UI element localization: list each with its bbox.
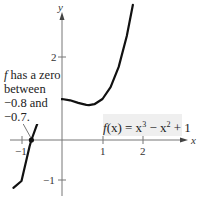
annotation-line-1: f has a zero — [4, 68, 61, 82]
x-axis-arrow-icon — [180, 138, 188, 143]
x-axis-label: x — [190, 134, 196, 146]
y-axis-label: y — [57, 1, 63, 13]
annotation-line-4: −0.7. — [4, 110, 61, 124]
x-tick-label-1: 1 — [100, 145, 106, 157]
x-tick-label-minus-1: −1 — [15, 145, 27, 157]
annotation-line-3: −0.8 and — [4, 96, 61, 110]
x-tick-label-2: 2 — [140, 145, 146, 157]
zero-annotation: f has a zero between −0.8 and −0.7. — [4, 68, 61, 124]
zero-point-marker — [29, 137, 34, 142]
function-formula-label: f(x) = x3 − x2 + 1 — [103, 114, 182, 136]
y-axis-arrow-icon — [60, 12, 65, 20]
y-tick-label-minus-1: −1 — [43, 174, 55, 186]
annotation-line-2: between — [4, 82, 61, 96]
y-tick-label-2: 2 — [51, 51, 57, 63]
